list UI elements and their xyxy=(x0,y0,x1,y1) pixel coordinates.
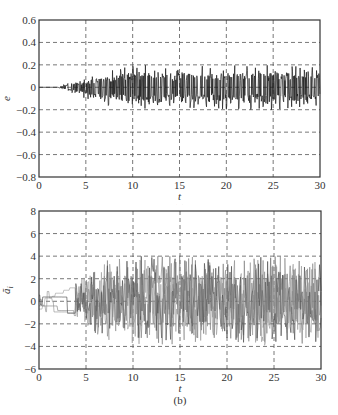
y-tick-label: −0.6 xyxy=(16,149,36,161)
y-tick-label: −0.4 xyxy=(16,126,36,138)
y-tick-label: −2 xyxy=(24,318,36,330)
panel-caption: (b) xyxy=(174,394,187,407)
chart-b: 05101520253086420−2−4−6tãi(b) xyxy=(0,195,338,415)
y-tick-label: −6 xyxy=(24,363,36,375)
y-tick-label: −4 xyxy=(24,340,36,352)
x-tick-label: 30 xyxy=(316,371,328,383)
x-tick-label: 5 xyxy=(83,179,89,191)
panel-a: 0510152025300.60.40.20−0.2−0.4−0.6−0.8te… xyxy=(0,0,338,205)
y-tick-label: −0.8 xyxy=(16,171,36,183)
x-tick-label: 0 xyxy=(36,371,42,383)
y-tick-label: 0.4 xyxy=(22,36,36,48)
x-tick-label: 20 xyxy=(221,179,233,191)
y-tick-label: 4 xyxy=(31,250,37,262)
x-tick-label: 10 xyxy=(127,179,139,191)
y-tick-label: 0.2 xyxy=(22,59,36,71)
x-tick-label: 5 xyxy=(83,371,89,383)
y-tick-label: 0 xyxy=(31,295,37,307)
x-tick-label: 25 xyxy=(268,179,280,191)
grid-lines xyxy=(39,20,320,177)
y-tick-label: 0.6 xyxy=(22,14,36,26)
y-tick-label: −0.2 xyxy=(16,104,36,116)
y-tick-label: 2 xyxy=(31,273,37,285)
x-tick-label: 0 xyxy=(36,179,42,191)
x-tick-label: 25 xyxy=(269,371,281,383)
y-axis-label: e xyxy=(0,96,12,101)
y-tick-label: 0 xyxy=(31,81,37,93)
y-axis-label-subscript: i xyxy=(6,286,15,288)
chart-a: 0510152025300.60.40.20−0.2−0.4−0.6−0.8te… xyxy=(0,0,338,205)
x-tick-label: 20 xyxy=(222,371,234,383)
y-axis-label: ãi xyxy=(0,286,15,294)
x-tick-label: 30 xyxy=(315,179,327,191)
panel-b: 05101520253086420−2−4−6tãi(b) xyxy=(0,195,338,415)
x-axis-label: t xyxy=(178,382,182,394)
x-tick-label: 10 xyxy=(128,371,140,383)
y-tick-label: 6 xyxy=(31,228,37,240)
y-tick-label: 8 xyxy=(31,205,37,217)
